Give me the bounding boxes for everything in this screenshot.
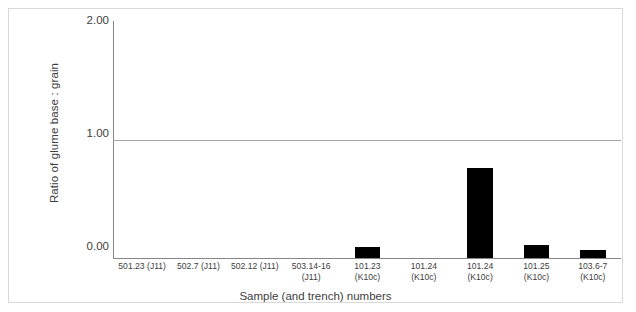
bar <box>524 245 550 258</box>
bar-series <box>114 21 621 258</box>
bar <box>467 168 493 258</box>
bar-slot <box>283 21 339 258</box>
x-axis-baseline <box>113 258 621 259</box>
x-tick-label: 502.12 (J11) <box>227 261 283 283</box>
x-tick-label: 101.23 (K10c) <box>339 261 395 283</box>
x-tick-label: 501.23 (J11) <box>114 261 170 283</box>
bar-slot <box>114 21 170 258</box>
bar <box>355 247 381 258</box>
bar-slot <box>508 21 564 258</box>
y-tick-label-1: 1.00 <box>75 128 109 140</box>
x-tick-label: 103.6-7 (K10c) <box>565 261 621 283</box>
bar-slot <box>452 21 508 258</box>
plot-area <box>113 21 621 259</box>
x-axis-title: Sample (and trench) numbers <box>9 290 622 302</box>
figure: Ratio of glume base : grain 2.00 1.00 0.… <box>0 0 636 312</box>
bar-slot <box>227 21 283 258</box>
x-tick-label: 101.24 (K10c) <box>396 261 452 283</box>
x-axis-tick-labels: 501.23 (J11)502.7 (J11)502.12 (J11)503.1… <box>114 261 621 283</box>
bar <box>580 250 606 258</box>
x-tick-label: 503.14-16 (J11) <box>283 261 339 283</box>
chart-frame: Ratio of glume base : grain 2.00 1.00 0.… <box>8 8 623 303</box>
x-tick-label: 101.24 (K10c) <box>452 261 508 283</box>
bar-slot <box>339 21 395 258</box>
y-tick-label-2: 2.00 <box>75 15 109 27</box>
bar-slot <box>170 21 226 258</box>
bar-slot <box>396 21 452 258</box>
y-tick-label-0: 0.00 <box>75 241 109 253</box>
bar-slot <box>565 21 621 258</box>
x-tick-label: 502.7 (J11) <box>170 261 226 283</box>
y-axis-tick-labels: 2.00 1.00 0.00 <box>69 9 109 294</box>
y-axis-title: Ratio of glume base : grain <box>48 18 60 248</box>
x-tick-label: 101.25 (K10c) <box>508 261 564 283</box>
